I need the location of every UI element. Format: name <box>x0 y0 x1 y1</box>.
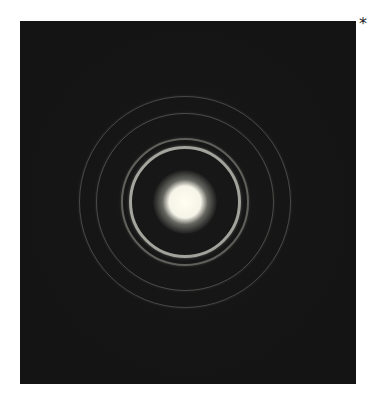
asterisk-marker: * <box>359 14 367 33</box>
central-beam-spot <box>153 170 217 234</box>
diffraction-pattern-image <box>20 21 356 384</box>
